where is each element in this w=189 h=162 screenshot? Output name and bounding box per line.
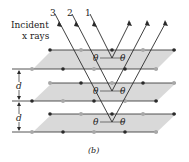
ray-label-1: 1: [85, 8, 91, 18]
svg-text:θ: θ: [120, 53, 126, 63]
incident-label-line2: x rays: [22, 31, 50, 41]
ray-label-2: 2: [67, 8, 73, 18]
bragg-diffraction-diagram: θ θ θ θ θ θ 3 2 1 Incident x rays d d (b…: [0, 0, 189, 162]
spacing-label-d-2: d: [16, 113, 22, 123]
incident-label-line1: Incident: [11, 20, 49, 30]
svg-text:θ: θ: [120, 86, 126, 96]
ray-arrowheads: [57, 20, 168, 27]
svg-text:θ: θ: [93, 53, 99, 63]
spacing-label-d-1: d: [16, 81, 22, 91]
ray-label-3: 3: [50, 8, 56, 18]
svg-text:θ: θ: [120, 117, 126, 127]
figure-caption: (b): [88, 146, 99, 155]
svg-text:θ: θ: [93, 86, 99, 96]
svg-text:θ: θ: [93, 117, 99, 127]
